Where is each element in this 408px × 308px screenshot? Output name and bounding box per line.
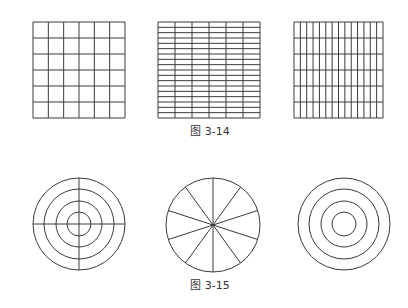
target-with-crosshair <box>33 178 125 270</box>
plain-concentric-rings <box>298 178 390 270</box>
figure-canvas <box>0 0 408 308</box>
grid-horizontal-rows <box>158 22 260 118</box>
grid-vertical-columns <box>294 22 383 118</box>
caption-figure-3-14: 图 3-14 <box>170 122 250 138</box>
pie-ten-segments <box>166 178 260 272</box>
caption-figure-3-15: 图 3-15 <box>170 276 250 292</box>
grid-square-6x6 <box>33 22 125 118</box>
